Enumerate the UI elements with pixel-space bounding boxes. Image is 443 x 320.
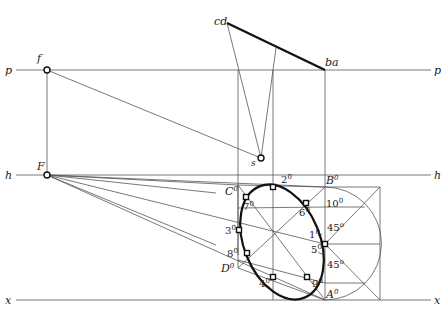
B0-label: B0	[325, 174, 339, 187]
angle-arc-lower	[318, 252, 322, 254]
point-2-marker	[271, 185, 276, 190]
point-s-marker	[258, 155, 264, 161]
D0-label: D0	[220, 262, 235, 275]
h-label-left: h	[5, 169, 12, 182]
ba-label: ba	[325, 56, 339, 69]
point-2-label: 20	[281, 173, 292, 185]
f-to-s-line	[47, 70, 261, 158]
f-label: f	[36, 52, 43, 65]
point-6-label: 60	[299, 206, 310, 218]
point-1-label: 10	[309, 228, 320, 240]
perspective-diagram: p p h h x x f F s cd ba B0 C0 D0 A0 20 7…	[0, 0, 443, 320]
point-8-label: 80	[227, 247, 238, 259]
x-label-left: x	[5, 294, 12, 307]
fan-line	[47, 175, 238, 185]
s-label: s	[251, 158, 256, 168]
point-8-marker	[245, 251, 250, 256]
C0-label: C0	[225, 185, 238, 198]
point-5-marker	[323, 242, 328, 247]
point-3-marker	[237, 228, 242, 233]
x-label-right: x	[434, 294, 441, 307]
point-f-marker	[44, 67, 50, 73]
fan-line	[47, 175, 216, 193]
diag-up	[325, 187, 380, 244]
point-9-marker	[305, 275, 310, 280]
plan-edge-cd-ba	[227, 23, 325, 70]
angle-45-upper-label: 45o	[327, 221, 344, 233]
plan-mid-to-s-line	[261, 48, 276, 158]
angle-45-lower-label: 45o	[327, 258, 344, 270]
point-F-marker	[44, 172, 50, 178]
h-label-right: h	[434, 169, 441, 182]
F-label: F	[36, 160, 45, 173]
fan-line	[47, 175, 216, 245]
point-4-marker	[271, 275, 276, 280]
point-7-label: 70	[243, 200, 254, 212]
point-3-label: 30	[225, 224, 236, 236]
p-label-right: p	[434, 64, 441, 77]
point-6-marker	[304, 201, 309, 206]
point-9-label: 90	[312, 277, 323, 289]
cd-to-s-line	[227, 23, 261, 158]
point-7-marker	[244, 195, 249, 200]
p-label-left: p	[5, 64, 12, 77]
fan-line	[47, 175, 325, 300]
cd-label: cd	[214, 15, 227, 28]
